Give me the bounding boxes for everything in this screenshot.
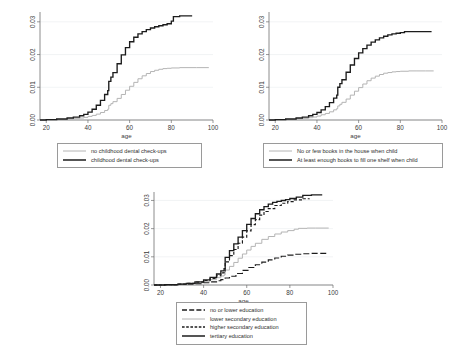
legend-books: No or few books in the house when childA… (263, 143, 443, 168)
legend-books-item: No or few books in the house when child (268, 147, 437, 156)
legend-line-icon (181, 315, 206, 323)
x-tick-label: 20 (272, 124, 280, 131)
x-tick-label: 60 (243, 289, 251, 296)
legend-dental-item: no childhood dental check-ups (62, 147, 196, 156)
legend-education-item: tertiary education (181, 332, 301, 341)
legend-label: higher secondary education (210, 323, 279, 332)
x-tick-label: 40 (84, 124, 92, 131)
legend-label: No or few books in the house when child (297, 147, 397, 156)
y-tick-label: 0.01 (258, 81, 265, 94)
y-tick-label: 0.00 (29, 113, 36, 126)
y-tick-label: 0.00 (258, 113, 265, 126)
x-tick-label: 20 (43, 124, 51, 131)
legend-label: At least enough books to fill one shelf … (297, 156, 418, 165)
panel-dental-plot: 0.000.010.020.0320406080100age (14, 6, 219, 146)
legend-line-icon (181, 332, 206, 340)
series-curve-1 (269, 32, 432, 120)
y-tick-label: 0.03 (258, 15, 265, 28)
y-tick-label: 0.03 (143, 194, 150, 207)
legend-label: childhood dental check-ups (91, 156, 159, 165)
legend-line-icon (62, 147, 87, 155)
x-tick-label: 80 (397, 124, 405, 131)
legend-education-item: no or lower education (181, 306, 301, 315)
panel-books: 0.000.010.020.0320406080100age (243, 6, 448, 146)
legend-line-icon (268, 156, 293, 164)
series-curve-0 (269, 71, 434, 120)
legend-education: no or lower educationlower secondary edu… (176, 302, 307, 345)
y-tick-label: 0.01 (143, 250, 150, 263)
x-tick-label: 40 (313, 124, 321, 131)
legend-label: no or lower education (210, 306, 264, 315)
legend-education-item: lower secondary education (181, 315, 301, 324)
y-tick-label: 0.02 (143, 222, 150, 235)
legend-label: tertiary education (210, 332, 253, 341)
legend-dental-item: childhood dental check-ups (62, 156, 196, 165)
series-curve-3 (154, 195, 322, 285)
series-curve-0 (40, 68, 209, 120)
panel-books-plot: 0.000.010.020.0320406080100age (243, 6, 448, 146)
legend-education-item: higher secondary education (181, 323, 301, 332)
x-tick-label: 80 (168, 124, 176, 131)
x-tick-label: 100 (437, 124, 448, 131)
legend-label: lower secondary education (210, 315, 277, 324)
legend-line-icon (181, 323, 206, 331)
y-tick-label: 0.02 (258, 48, 265, 61)
y-tick-label: 0.02 (29, 48, 36, 61)
x-tick-label: 20 (157, 289, 165, 296)
x-tick-label: 100 (208, 124, 219, 131)
legend-dental: no childhood dental check-upschildhood d… (57, 143, 202, 168)
legend-books-item: At least enough books to fill one shelf … (268, 156, 437, 165)
y-tick-label: 0.01 (29, 81, 36, 94)
x-axis-title: age (350, 132, 361, 139)
series-curve-2 (154, 198, 309, 285)
legend-line-icon (62, 156, 87, 164)
legend-line-icon (181, 306, 206, 314)
y-tick-label: 0.00 (143, 278, 150, 291)
x-tick-label: 100 (328, 289, 339, 296)
y-tick-label: 0.03 (29, 15, 36, 28)
panel-dental: 0.000.010.020.0320406080100age (14, 6, 219, 146)
legend-label: no childhood dental check-ups (91, 147, 167, 156)
legend-line-icon (268, 147, 293, 155)
x-axis-title: age (121, 132, 132, 139)
x-tick-label: 80 (286, 289, 294, 296)
panel-education: 0.000.010.020.0320406080100age (124, 186, 339, 311)
panel-education-plot: 0.000.010.020.0320406080100age (124, 186, 339, 311)
x-tick-label: 60 (355, 124, 363, 131)
x-tick-label: 40 (200, 289, 208, 296)
x-tick-label: 60 (126, 124, 134, 131)
